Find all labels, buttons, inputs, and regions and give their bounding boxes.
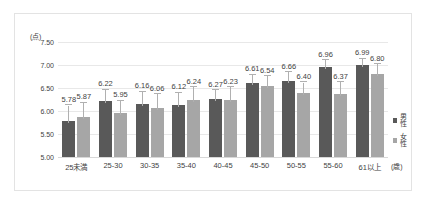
x-axis-tick-label: 40-45 (205, 161, 242, 172)
bar-group: 6.276.23 (205, 42, 242, 157)
bar-data-label: 6.54 (260, 67, 275, 75)
bar-data-label: 5.87 (77, 93, 92, 101)
bar[interactable] (224, 100, 237, 157)
bar-data-label: 6.99 (355, 49, 370, 57)
bar[interactable] (261, 86, 274, 157)
bar-data-label: 6.24 (187, 78, 202, 86)
bar-group: 5.785.87 (58, 42, 95, 157)
legend-label: 女性 (400, 133, 411, 147)
error-bar-cap (227, 86, 234, 87)
x-axis-tick-label: 45-50 (241, 161, 278, 172)
bar-pair: 6.276.23 (205, 42, 242, 157)
bar-slot: 5.87 (77, 42, 90, 157)
error-bar-cap (374, 63, 381, 64)
bar-group: 6.616.54 (241, 42, 278, 157)
bar[interactable] (136, 104, 149, 157)
legend-item[interactable]: 女性 (393, 133, 411, 147)
x-axis-tick-label: 30-35 (131, 161, 168, 172)
bar-slot: 6.96 (319, 42, 332, 157)
bar[interactable] (187, 100, 200, 157)
error-bar (252, 75, 253, 85)
error-bar-cap (249, 74, 256, 75)
x-axis-tick-label: 35-40 (168, 161, 205, 172)
bar-data-label: 6.96 (318, 51, 333, 59)
error-bar-cap (300, 81, 307, 82)
error-bar (377, 64, 378, 76)
error-bar-cap (322, 59, 329, 60)
error-bar (340, 82, 341, 96)
bar-group: 6.225.95 (95, 42, 132, 157)
bar-data-label: 6.37 (333, 73, 348, 81)
bar-group: 6.966.37 (315, 42, 352, 157)
error-bar (157, 94, 158, 110)
error-bar (215, 90, 216, 100)
bar[interactable] (297, 93, 310, 157)
chart-container: (点) 5.005.506.006.507.007.50 5.785.876.2… (14, 13, 412, 191)
bar-slot: 6.06 (151, 42, 164, 157)
plot-area: 5.005.506.006.507.007.50 5.785.876.225.9… (58, 42, 388, 157)
x-axis-tick-label: 55-60 (315, 161, 352, 172)
bar-pair: 6.966.37 (315, 42, 352, 157)
bar-slot: 6.66 (282, 42, 295, 157)
bar-data-label: 6.40 (297, 73, 312, 81)
error-bar-cap (285, 71, 292, 72)
error-bar-cap (264, 75, 271, 76)
bar-data-label: 6.27 (208, 81, 223, 89)
bar[interactable] (209, 99, 222, 157)
y-axis-tick-label: 6.50 (40, 85, 54, 92)
bar[interactable] (114, 113, 127, 157)
chart-legend: 男性女性 (393, 113, 411, 147)
bar-pair: 6.616.54 (241, 42, 278, 157)
y-axis-tick-label: 5.00 (40, 154, 54, 161)
bar-slot: 6.37 (334, 42, 347, 157)
y-axis-tick-label: 7.50 (40, 39, 54, 46)
error-bar (193, 87, 194, 102)
bar-pair: 6.666.40 (278, 42, 315, 157)
legend-item[interactable]: 男性 (393, 113, 411, 127)
error-bar (68, 106, 69, 124)
bar[interactable] (62, 121, 75, 157)
y-axis-tick-label: 7.00 (40, 62, 54, 69)
bar[interactable] (319, 67, 332, 157)
error-bar (267, 76, 268, 88)
bar[interactable] (77, 117, 90, 157)
bar[interactable] (151, 108, 164, 157)
bar-data-label: 6.23 (223, 78, 238, 86)
bar-slot: 6.61 (246, 42, 259, 157)
bar[interactable] (172, 105, 185, 157)
bar[interactable] (282, 81, 295, 157)
bar-data-label: 5.95 (113, 91, 128, 99)
bar[interactable] (99, 101, 112, 157)
error-bar-cap (190, 86, 197, 87)
bar-slot: 6.22 (99, 42, 112, 157)
bar[interactable] (371, 74, 384, 157)
legend-label: 男性 (400, 113, 411, 127)
bar-slot: 6.23 (224, 42, 237, 157)
y-axis-tick-label: 6.00 (40, 108, 54, 115)
bar[interactable] (246, 83, 259, 157)
x-axis-tick-labels: 25未満25-3030-3535-4040-4545-5050-5555-606… (58, 161, 388, 172)
error-bar (303, 83, 304, 95)
bar-data-label: 6.06 (150, 85, 165, 93)
error-bar-cap (102, 89, 109, 90)
error-bar-cap (80, 102, 87, 103)
bar-slot: 6.40 (297, 42, 310, 157)
error-bar (83, 103, 84, 119)
bar-slot: 6.27 (209, 42, 222, 157)
bar-slot: 6.16 (136, 42, 149, 157)
bar-data-label: 6.22 (98, 80, 113, 88)
bar-data-label: 6.61 (245, 65, 260, 73)
error-bar-cap (337, 81, 344, 82)
error-bar-cap (175, 92, 182, 93)
x-axis-tick-label: 25未満 (58, 161, 95, 172)
bar-pair: 6.166.06 (131, 42, 168, 157)
error-bar (362, 59, 363, 68)
gridline (58, 157, 388, 158)
bar-data-label: 6.16 (135, 82, 150, 90)
bar[interactable] (334, 94, 347, 157)
bar-slot: 6.80 (371, 42, 384, 157)
x-axis-tick-label: 61以上 (351, 161, 388, 172)
bar[interactable] (356, 65, 369, 157)
bar-group: 6.166.06 (131, 42, 168, 157)
bar-data-label: 6.12 (172, 83, 187, 91)
